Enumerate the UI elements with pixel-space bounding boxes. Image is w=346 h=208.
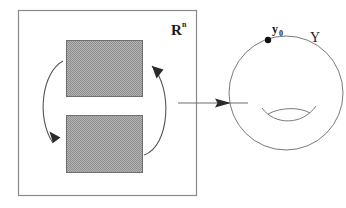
lower-region bbox=[67, 116, 143, 173]
codomain-sphere-group bbox=[229, 36, 343, 150]
right-arc-arrowhead bbox=[152, 66, 164, 79]
codomain-sphere-outline bbox=[229, 36, 343, 150]
domain-label-group: R n bbox=[171, 20, 187, 38]
figure-canvas: R n bbox=[0, 0, 346, 208]
domain-label: R bbox=[171, 22, 182, 38]
right-arc-path bbox=[144, 66, 166, 155]
right-arc-arrow bbox=[144, 66, 166, 155]
domain-label-superscript: n bbox=[182, 20, 187, 29]
basepoint-label-subscript: 0 bbox=[279, 29, 283, 38]
left-arc-arrowhead bbox=[50, 132, 61, 144]
figure-root: R n bbox=[0, 0, 346, 208]
left-arc-arrow bbox=[43, 61, 63, 143]
codomain-label: Y bbox=[310, 30, 320, 45]
regions-group bbox=[67, 41, 143, 173]
upper-region bbox=[67, 41, 143, 97]
basepoint-label: y bbox=[272, 22, 278, 36]
map-arrow-group bbox=[178, 99, 248, 108]
sphere-handle-lower-arc bbox=[268, 109, 310, 114]
left-arc-path bbox=[43, 61, 63, 143]
basepoint-label-group: y 0 bbox=[272, 22, 283, 38]
basepoint-dot bbox=[265, 37, 271, 43]
